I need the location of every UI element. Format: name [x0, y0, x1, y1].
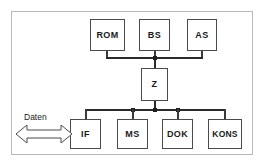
junction-dot-bottom-center	[153, 108, 157, 112]
connector-bus-to-ms	[132, 109, 134, 119]
node-if[interactable]: IF	[70, 119, 101, 149]
node-z[interactable]: Z	[141, 68, 168, 101]
node-kons[interactable]: KONS	[208, 119, 242, 149]
node-bs[interactable]: BS	[139, 19, 170, 51]
connector-bus-to-kons	[224, 109, 226, 119]
connector-bus-to-dok	[177, 109, 179, 119]
node-kons-label: KONS	[212, 130, 237, 139]
connector-bus-to-if	[85, 109, 87, 119]
junction-dot-top	[153, 56, 157, 60]
node-rom[interactable]: ROM	[90, 19, 125, 51]
node-ms[interactable]: MS	[117, 119, 148, 149]
node-ms-label: MS	[125, 130, 139, 139]
node-dok-label: DOK	[167, 130, 188, 139]
diagram-canvas: ROM BS AS Z IF MS DOK KONS Daten	[0, 0, 266, 166]
node-rom-label: ROM	[96, 31, 118, 40]
node-bs-label: BS	[148, 31, 161, 40]
node-as[interactable]: AS	[187, 19, 217, 51]
node-if-label: IF	[81, 130, 90, 139]
node-z-label: Z	[152, 80, 158, 89]
node-dok[interactable]: DOK	[162, 119, 193, 149]
daten-label: Daten	[24, 113, 47, 122]
double-arrow-horizontal-icon	[15, 123, 73, 145]
node-as-label: AS	[195, 31, 208, 40]
